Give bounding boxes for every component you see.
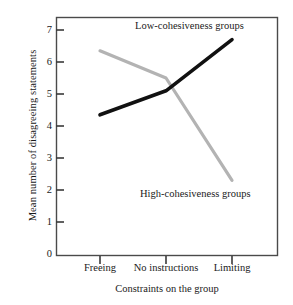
x-tick-label-freeing: Freeing xyxy=(84,262,116,273)
series-annotation-high-cohesiveness: High-cohesiveness groups xyxy=(140,188,251,199)
plot-area xyxy=(0,0,293,305)
x-tick-label-limiting: Limiting xyxy=(214,262,251,273)
x-axis-title: Constraints on the group xyxy=(56,283,278,294)
figure-container: Mean number of disagreeing statements 7 … xyxy=(0,0,293,305)
series-annotation-low-cohesiveness: Low-cohesiveness groups xyxy=(135,20,244,31)
series-line-high-cohesiveness xyxy=(100,51,232,181)
x-tick-label-no-instructions: No instructions xyxy=(134,262,198,273)
plot-frame xyxy=(57,18,278,256)
figure-caption-partial xyxy=(0,299,293,305)
